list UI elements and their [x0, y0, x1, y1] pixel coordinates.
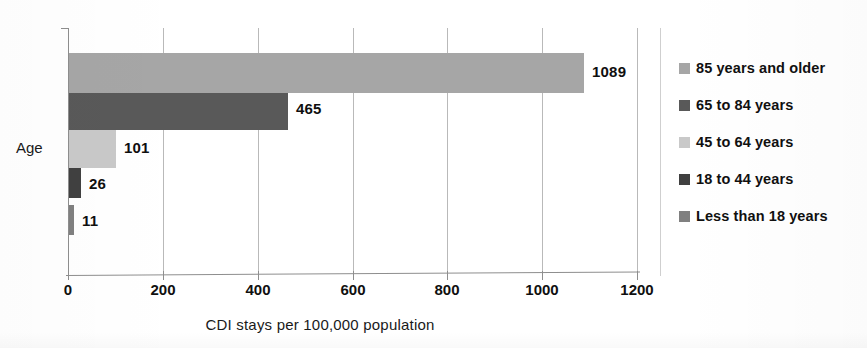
legend-label-65-to-84-years: 65 to 84 years [696, 97, 793, 113]
bar-85-years-and-older [68, 53, 584, 93]
tick-mark-400 [258, 271, 259, 280]
tick-mark-600 [353, 271, 354, 280]
gridline-1200 [637, 28, 638, 274]
x-tick-label-400: 400 [228, 281, 288, 298]
x-tick-label-200: 200 [133, 281, 193, 298]
legend-label-less-than-18-years: Less than 18 years [696, 208, 828, 224]
bar-18-to-44-years [68, 168, 81, 198]
bar-65-to-84-years [68, 93, 288, 130]
legend-item-45-to-64-years[interactable]: 45 to 64 years [679, 134, 793, 150]
legend-label-85-years-and-older: 85 years and older [696, 60, 825, 76]
legend-label-45-to-64-years: 45 to 64 years [696, 134, 793, 150]
bar-value-label-26: 26 [89, 175, 106, 192]
bar-45-to-64-years [68, 130, 116, 168]
bar-value-label-465: 465 [296, 100, 322, 117]
y-axis-line [68, 28, 69, 276]
legend-swatch-icon-less-than-18-years [679, 211, 690, 222]
bar-value-label-1089: 1089 [592, 63, 626, 80]
x-tick-label-1000: 1000 [512, 281, 572, 298]
x-tick-label-800: 800 [417, 281, 477, 298]
tick-mark-200 [163, 271, 164, 280]
legend-item-less-than-18-years[interactable]: Less than 18 years [679, 208, 828, 224]
plot-area [68, 28, 637, 274]
legend-swatch-icon-18-to-44-years [679, 174, 690, 185]
page-edge-shadow [0, 332, 867, 348]
bar-value-label-101: 101 [124, 139, 150, 156]
tick-mark-0 [68, 271, 69, 280]
legend-item-85-years-and-older[interactable]: 85 years and older [679, 60, 825, 76]
legend-item-65-to-84-years[interactable]: 65 to 84 years [679, 97, 793, 113]
tick-mark-800 [447, 271, 448, 280]
legend-item-18-to-44-years[interactable]: 18 to 44 years [679, 171, 793, 187]
legend-swatch-icon-45-to-64-years [679, 137, 690, 148]
bar-chart: 1089 465 101 26 11 0 200 400 600 800 100… [0, 0, 867, 348]
tick-mark-1200 [637, 271, 638, 280]
x-tick-label-1200: 1200 [607, 281, 667, 298]
legend-swatch-icon-65-to-84-years [679, 100, 690, 111]
bar-value-label-11: 11 [82, 212, 98, 229]
legend: 85 years and older 65 to 84 years 45 to … [660, 28, 867, 276]
y-axis-title: Age [16, 139, 43, 156]
tick-mark-1000 [542, 271, 543, 280]
legend-label-18-to-44-years: 18 to 44 years [696, 171, 793, 187]
legend-swatch-icon-85-years-and-older [679, 63, 690, 74]
x-tick-label-600: 600 [323, 281, 383, 298]
x-tick-label-0: 0 [38, 281, 98, 298]
x-axis-title: CDI stays per 100,000 population [0, 316, 640, 333]
